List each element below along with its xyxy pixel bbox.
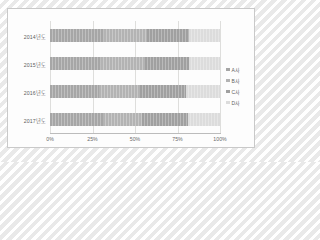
bar-segment[interactable] [186, 85, 220, 98]
bar-segment[interactable] [142, 113, 188, 126]
y-axis-tick-label: 2017년도 [8, 117, 46, 124]
x-axis-line [50, 133, 221, 134]
legend-item[interactable]: C사 [226, 86, 256, 97]
y-axis-tick-label: 2016년도 [8, 89, 46, 96]
legend-label: D사 [232, 99, 241, 106]
legend-label: B사 [232, 77, 240, 84]
legend-item[interactable]: B사 [226, 75, 256, 86]
bar-segment[interactable] [50, 113, 103, 126]
legend-label: A사 [232, 66, 240, 73]
legend-swatch-icon [226, 68, 230, 72]
bar-row[interactable] [50, 85, 220, 98]
x-axis-tick-label: 0% [38, 136, 62, 142]
bar-segment[interactable] [145, 57, 189, 70]
legend-swatch-icon [226, 101, 230, 105]
bar-row[interactable] [50, 113, 220, 126]
bar-row[interactable] [50, 29, 220, 42]
bar-segment[interactable] [103, 113, 142, 126]
bar-segment[interactable] [189, 57, 220, 70]
legend-label: C사 [232, 88, 241, 95]
bar-row[interactable] [50, 57, 220, 70]
legend-swatch-icon [226, 79, 230, 83]
bar-segment[interactable] [140, 85, 186, 98]
chart-legend: A사B사C사D사 [226, 64, 256, 108]
y-axis-tick-label: 2014년도 [8, 33, 46, 40]
legend-item[interactable]: A사 [226, 64, 256, 75]
x-axis-tick-label: 75% [166, 136, 190, 142]
bar-segment[interactable] [101, 57, 145, 70]
y-axis-tick-label: 2015년도 [8, 61, 46, 68]
gridline-100pct [220, 21, 221, 133]
bar-segment[interactable] [50, 29, 104, 42]
legend-item[interactable]: D사 [226, 97, 256, 108]
legend-swatch-icon [226, 90, 230, 94]
bar-segment[interactable] [50, 57, 101, 70]
bar-segment[interactable] [99, 85, 140, 98]
bar-segment[interactable] [104, 29, 147, 42]
bar-segment[interactable] [50, 85, 99, 98]
x-axis-tick-label: 50% [123, 136, 147, 142]
bar-segment[interactable] [189, 29, 220, 42]
plot-area [50, 21, 220, 133]
bar-segment[interactable] [147, 29, 190, 42]
bar-segment[interactable] [188, 113, 220, 126]
chart-card: 2014년도2015년도2016년도2017년도 0%25%50%75%100%… [7, 8, 255, 148]
x-axis-tick-label: 100% [208, 136, 232, 142]
x-axis-tick-label: 25% [81, 136, 105, 142]
